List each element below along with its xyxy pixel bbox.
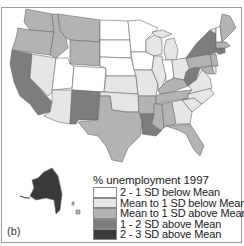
legend-item: 2 - 3 SD above Mean (93, 229, 243, 240)
state-or (12, 28, 54, 55)
state-nm (70, 90, 100, 124)
state-nd (100, 20, 130, 40)
state-wy (70, 40, 100, 66)
state-ri (222, 48, 225, 53)
state-ia (131, 52, 154, 70)
panel-label: (b) (7, 225, 20, 237)
legend-swatch (93, 229, 117, 240)
state-ar (138, 96, 156, 114)
legend-swatch (93, 219, 117, 230)
legend-swatch (93, 187, 117, 198)
legend-label: 2 - 1 SD below Mean (120, 187, 220, 198)
state-ak (30, 168, 62, 214)
legend-swatch (93, 208, 117, 219)
state-ks (104, 76, 138, 94)
legend-item: 2 - 1 SD below Mean (93, 187, 243, 198)
state-ak-aleutians (20, 196, 30, 198)
state-wa (24, 9, 54, 32)
state-sd (100, 40, 131, 58)
state-co (72, 66, 106, 92)
state-me (220, 14, 236, 42)
legend-swatch (93, 198, 117, 209)
map-legend: % unemployment 1997 2 - 1 SD below Mean … (93, 174, 243, 240)
state-ma (216, 42, 230, 48)
state-hi (76, 210, 80, 214)
state-fl (166, 124, 204, 156)
state-ct (216, 48, 222, 54)
legend-label: 2 - 3 SD above Mean (120, 229, 221, 240)
state-mi (164, 38, 178, 60)
state-hi-2 (72, 202, 74, 205)
